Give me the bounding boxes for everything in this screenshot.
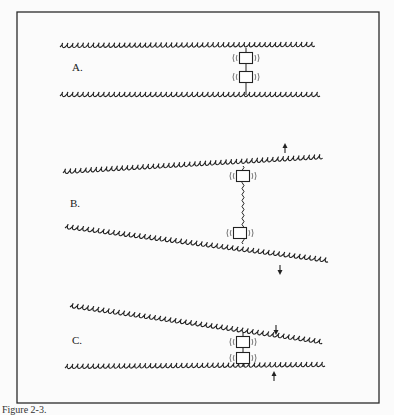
vibration-mark	[252, 339, 253, 345]
vibration-mark	[233, 73, 234, 81]
binding-box	[233, 53, 259, 64]
vibration-mark	[252, 229, 253, 237]
vibration-mark	[258, 73, 259, 81]
arrow-down-icon	[278, 270, 283, 275]
vibration-mark	[230, 338, 231, 346]
vibration-mark	[249, 230, 250, 236]
binding-box	[230, 353, 256, 364]
vibration-mark	[255, 74, 256, 80]
panel-label: B.	[70, 197, 80, 209]
coiled-filament	[70, 304, 322, 344]
vibration-mark	[255, 338, 256, 346]
binding-box	[230, 171, 256, 182]
vibration-mark	[233, 173, 234, 179]
vibration-mark	[255, 55, 256, 61]
arrow-up-icon	[283, 143, 288, 148]
vibration-mark	[227, 229, 228, 237]
coiled-filament	[65, 225, 328, 263]
coiled-filament	[65, 362, 325, 368]
coiled-filament	[60, 42, 315, 47]
arrow-up-icon	[272, 371, 277, 376]
vibration-mark	[230, 230, 231, 236]
coiled-filament	[60, 92, 320, 96]
panel-c: C.	[65, 304, 325, 381]
vibration-mark	[252, 355, 253, 361]
vibration-mark	[255, 354, 256, 362]
panel-a: A.	[60, 42, 320, 96]
panel-label: C.	[72, 334, 82, 346]
vibration-mark	[230, 172, 231, 180]
vibration-mark	[233, 339, 234, 345]
panel-b: B.	[63, 143, 328, 275]
vibration-mark	[233, 54, 234, 62]
vibration-mark	[252, 173, 253, 179]
figure-caption: Figure 2-3.	[2, 404, 46, 415]
binding-box	[233, 72, 259, 83]
vibration-mark	[255, 172, 256, 180]
panel-label: A.	[72, 61, 83, 73]
vibration-mark	[258, 54, 259, 62]
binding-box	[227, 228, 253, 239]
vibration-mark	[236, 74, 237, 80]
vibration-mark	[233, 355, 234, 361]
binding-box	[230, 337, 256, 348]
vibration-mark	[236, 55, 237, 61]
vibration-mark	[230, 354, 231, 362]
coiled-filament	[63, 155, 323, 174]
panels-group: A.B.C.	[60, 42, 328, 381]
